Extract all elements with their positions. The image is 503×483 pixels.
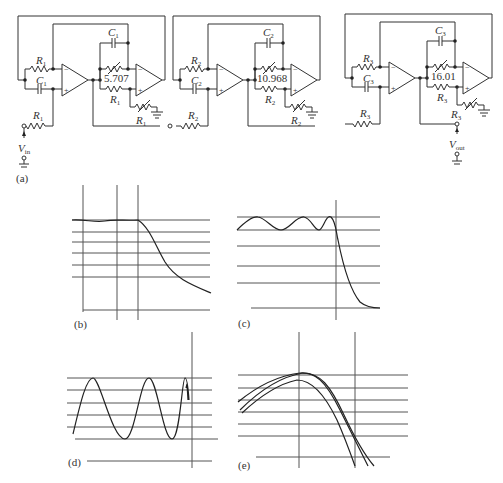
svg-text:+: +	[293, 86, 298, 95]
filter-stage-3: − + − +	[345, 14, 492, 164]
svg-text:R1: R1	[135, 114, 147, 128]
svg-text:C2: C2	[263, 26, 274, 40]
panel-label-e: (e)	[238, 459, 251, 472]
plot-d: (d)	[67, 332, 218, 469]
svg-text:R3: R3	[450, 108, 462, 122]
svg-text:+: +	[219, 86, 224, 95]
svg-text:+: +	[64, 86, 69, 95]
label-r-stage1: R1	[35, 54, 47, 68]
svg-text:−: −	[465, 63, 470, 72]
vin-label: Vin	[18, 142, 31, 156]
panel-label-c: (c)	[238, 317, 251, 330]
svg-text:+: +	[465, 84, 470, 93]
svg-text:C2: C2	[191, 74, 202, 88]
svg-text:C3: C3	[363, 72, 374, 86]
svg-text:+: +	[138, 86, 143, 95]
svg-text:R1: R1	[32, 109, 44, 123]
circuit-schematic: − +	[16, 14, 492, 185]
filter-stage-1: − +	[18, 16, 165, 129]
gain-stage1: 5.707	[104, 72, 129, 84]
plot-e: (e)	[238, 332, 408, 472]
panel-label-d: (d)	[68, 456, 81, 469]
vout-label: Vout	[449, 138, 465, 152]
label-c-stage1: C1	[36, 74, 47, 88]
panel-label-b: (b)	[74, 318, 87, 331]
figure: − +	[0, 0, 503, 483]
svg-text:−: −	[219, 65, 224, 74]
svg-text:+: +	[391, 84, 396, 93]
svg-text:−: −	[64, 65, 69, 74]
gain-stage3: 16.01	[431, 70, 456, 82]
svg-text:R3: R3	[359, 107, 371, 121]
plot-b: (b)	[72, 185, 211, 331]
svg-text:R1: R1	[109, 93, 121, 107]
plot-c: (c)	[237, 200, 380, 330]
svg-text:C3: C3	[435, 24, 446, 38]
filter-stage-2: − + − +	[168, 16, 320, 129]
svg-text:R2: R2	[264, 93, 276, 107]
gain-stage2: 10.968	[257, 72, 288, 84]
panel-label-a: (a)	[16, 172, 29, 185]
svg-text:C1: C1	[108, 26, 119, 40]
svg-text:R2: R2	[187, 109, 199, 123]
svg-text:R3: R3	[436, 91, 448, 105]
svg-text:−: −	[138, 65, 143, 74]
svg-text:R2: R2	[190, 54, 202, 68]
svg-text:R3: R3	[362, 52, 374, 66]
svg-text:R2: R2	[290, 114, 302, 128]
svg-text:−: −	[293, 65, 298, 74]
svg-text:−: −	[391, 63, 396, 72]
